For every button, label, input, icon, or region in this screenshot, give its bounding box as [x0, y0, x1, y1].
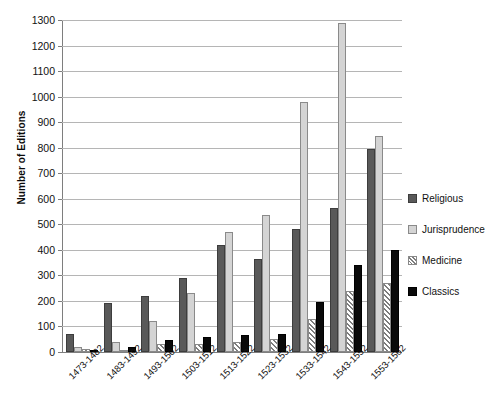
legend-swatch-icon — [408, 194, 417, 203]
y-tick-label: 600 — [37, 193, 55, 205]
bar-jurisprudence[interactable] — [112, 342, 120, 352]
y-tick-mark — [58, 275, 62, 276]
bar-jurisprudence[interactable] — [300, 102, 308, 352]
legend-label: Classics — [422, 286, 459, 297]
y-tick-label: 1300 — [32, 14, 55, 26]
bar-chart: Number of Editions 010020030040050060070… — [0, 0, 501, 416]
y-tick-label: 500 — [37, 218, 55, 230]
legend-item-jurisprudence[interactable]: Jurisprudence — [408, 214, 501, 245]
chart-legend: ReligiousJurisprudenceMedicineClassics — [408, 183, 501, 307]
x-label-cell: 1483-1492 — [101, 352, 139, 416]
y-tick-label: 1000 — [32, 91, 55, 103]
bar-medicine[interactable] — [308, 319, 316, 352]
x-label-cell: 1503-1512 — [176, 352, 214, 416]
y-tick-label: 100 — [37, 320, 55, 332]
bar-group — [214, 20, 252, 352]
y-tick-mark — [58, 122, 62, 123]
bar-groups-layer — [63, 20, 402, 352]
bar-group — [138, 20, 176, 352]
y-tick-label: 900 — [37, 116, 55, 128]
bar-religious[interactable] — [66, 334, 74, 352]
bar-group — [327, 20, 365, 352]
y-tick-mark — [58, 97, 62, 98]
bar-classics[interactable] — [354, 265, 362, 352]
plot-area: 0100200300400500600700800900100011001200… — [62, 20, 402, 352]
y-tick-mark — [58, 301, 62, 302]
legend-label: Medicine — [422, 255, 462, 266]
x-axis-labels: 1473-14821483-14921493-15021503-15121513… — [63, 352, 403, 416]
bar-religious[interactable] — [179, 278, 187, 352]
y-tick-label: 1200 — [32, 40, 55, 52]
bar-medicine[interactable] — [383, 283, 391, 352]
bar-group — [63, 20, 101, 352]
x-label-cell: 1523-1532 — [252, 352, 290, 416]
bar-religious[interactable] — [292, 229, 300, 352]
legend-swatch-icon — [408, 256, 417, 265]
y-tick-label: 1100 — [32, 65, 55, 77]
bar-jurisprudence[interactable] — [225, 232, 233, 352]
legend-swatch-icon — [408, 287, 417, 296]
y-tick-mark — [58, 20, 62, 21]
x-label-cell: 1553-1562 — [365, 352, 403, 416]
legend-label: Jurisprudence — [422, 224, 485, 235]
bar-religious[interactable] — [217, 245, 225, 352]
y-axis-title: Number of Editions — [16, 93, 27, 223]
bar-group — [176, 20, 214, 352]
bar-jurisprudence[interactable] — [262, 215, 270, 352]
y-tick-label: 0 — [49, 346, 55, 358]
plot-inner: 0100200300400500600700800900100011001200… — [62, 20, 402, 352]
legend-swatch-icon — [408, 225, 417, 234]
x-label-cell: 1533-1542 — [290, 352, 328, 416]
x-label-cell: 1543-1552 — [327, 352, 365, 416]
y-tick-mark — [58, 148, 62, 149]
x-label-cell: 1493-1502 — [139, 352, 177, 416]
bar-religious[interactable] — [141, 296, 149, 352]
y-tick-mark — [58, 71, 62, 72]
bar-religious[interactable] — [104, 303, 112, 352]
y-tick-label: 800 — [37, 142, 55, 154]
y-tick-mark — [58, 326, 62, 327]
legend-item-medicine[interactable]: Medicine — [408, 245, 501, 276]
bar-jurisprudence[interactable] — [375, 136, 383, 352]
y-tick-label: 400 — [37, 244, 55, 256]
y-tick-mark — [58, 352, 62, 353]
bar-group — [251, 20, 289, 352]
bar-classics[interactable] — [391, 250, 399, 352]
bar-religious[interactable] — [367, 149, 375, 352]
y-tick-mark — [58, 46, 62, 47]
y-tick-mark — [58, 250, 62, 251]
bar-jurisprudence[interactable] — [338, 23, 346, 352]
bar-medicine[interactable] — [346, 291, 354, 352]
y-tick-mark — [58, 173, 62, 174]
bar-religious[interactable] — [254, 259, 262, 352]
x-label-cell: 1473-1482 — [63, 352, 101, 416]
y-tick-mark — [58, 224, 62, 225]
bar-group — [364, 20, 402, 352]
bar-group — [289, 20, 327, 352]
y-tick-label: 200 — [37, 295, 55, 307]
y-tick-label: 300 — [37, 269, 55, 281]
x-label-cell: 1513-1522 — [214, 352, 252, 416]
bar-religious[interactable] — [330, 208, 338, 352]
legend-item-religious[interactable]: Religious — [408, 183, 501, 214]
legend-label: Religious — [422, 193, 463, 204]
bar-group — [101, 20, 139, 352]
y-tick-mark — [58, 199, 62, 200]
bar-jurisprudence[interactable] — [187, 293, 195, 352]
bar-jurisprudence[interactable] — [149, 321, 157, 352]
legend-item-classics[interactable]: Classics — [408, 276, 501, 307]
y-tick-label: 700 — [37, 167, 55, 179]
